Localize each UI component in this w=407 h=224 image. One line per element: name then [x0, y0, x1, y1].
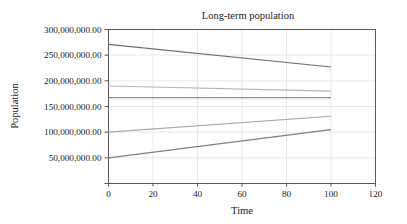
x-tick-label: 80: [282, 189, 292, 199]
y-tick-label: 100,000,000.00: [44, 127, 102, 137]
x-tick-label: 100: [324, 189, 338, 199]
x-axis-title: Time: [231, 205, 253, 216]
x-tick-label: 120: [369, 189, 383, 199]
y-tick-label: 250,000,000.00: [44, 50, 102, 60]
x-tick-label: 0: [106, 189, 111, 199]
y-tick-label: 150,000,000.00: [44, 102, 102, 112]
y-tick-label: 300,000,000.00: [44, 25, 102, 35]
chart-figure: 50,000,000.00100,000,000.00150,000,000.0…: [0, 0, 407, 224]
y-tick-label: 50,000,000.00: [49, 153, 102, 163]
x-tick-label: 20: [148, 189, 158, 199]
chart-title: Long-term population: [202, 10, 295, 21]
x-tick-label: 60: [237, 189, 247, 199]
x-tick-label: 40: [193, 189, 203, 199]
y-axis-title: Population: [9, 83, 20, 129]
y-tick-label: 200,000,000.00: [44, 76, 102, 86]
line-chart: 50,000,000.00100,000,000.00150,000,000.0…: [0, 0, 407, 224]
